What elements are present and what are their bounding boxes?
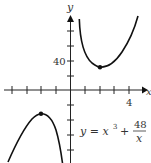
svg-text:y = x: y = x xyxy=(79,125,109,138)
function-graph: y x 4 40 y = x 3 + 48 x xyxy=(0,0,151,163)
svg-text:x: x xyxy=(136,132,143,145)
svg-text:+: + xyxy=(120,125,129,138)
y-tick-label: 40 xyxy=(53,56,66,67)
local-minimum-point xyxy=(98,65,102,69)
local-maximum-point xyxy=(39,112,43,116)
svg-text:48: 48 xyxy=(134,119,147,130)
y-axis-label: y xyxy=(66,1,74,14)
curve-right-branch xyxy=(79,16,138,67)
svg-text:3: 3 xyxy=(113,123,117,131)
curve-left-branch xyxy=(8,114,63,163)
equation-label: y = x 3 + 48 x xyxy=(79,119,147,145)
x-axis-label: x xyxy=(146,86,151,97)
y-axis-arrow-icon xyxy=(67,15,74,22)
x-tick-label: 4 xyxy=(126,97,132,108)
